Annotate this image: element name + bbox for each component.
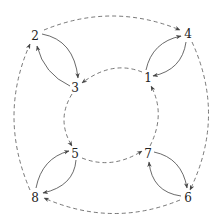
node-8: 8 xyxy=(31,191,39,205)
edge-2-to-4 xyxy=(44,16,180,30)
node-7: 7 xyxy=(144,147,152,161)
outer-dashed-cycle xyxy=(14,16,209,214)
edge-6-to-8 xyxy=(44,198,180,214)
graph-diagram: 1 2 3 4 5 6 7 8 xyxy=(0,0,222,224)
node-1: 1 xyxy=(144,71,152,85)
solid-edges xyxy=(36,34,187,196)
edge-2-to-3 xyxy=(42,34,78,78)
edge-6-to-7 xyxy=(149,162,181,196)
node-5: 5 xyxy=(71,147,79,161)
node-2: 2 xyxy=(31,29,39,43)
edge-1-to-3 xyxy=(82,68,142,83)
node-labels: 1 2 3 4 5 6 7 8 xyxy=(31,27,192,205)
edge-7-to-1 xyxy=(150,86,158,146)
edge-8-to-5 xyxy=(36,151,69,188)
node-6: 6 xyxy=(184,191,192,205)
edge-8-to-2 xyxy=(14,44,30,190)
node-4: 4 xyxy=(184,27,192,41)
edge-3-to-5 xyxy=(64,94,72,146)
edge-4-to-6 xyxy=(190,42,209,190)
edge-5-to-8 xyxy=(43,160,76,193)
node-3: 3 xyxy=(71,81,79,95)
edge-7-to-6 xyxy=(154,152,187,188)
edge-3-to-2 xyxy=(37,46,70,86)
edge-5-to-7 xyxy=(82,151,142,163)
